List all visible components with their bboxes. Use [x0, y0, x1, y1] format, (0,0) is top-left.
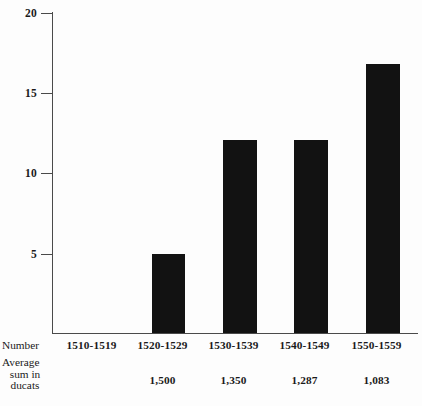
bar-chart-figure: 20 15 10 5 Number Average sum in ducats … [0, 0, 422, 406]
category-label-1540-1549: 1540-1549 [268, 340, 341, 351]
y-tick-label-20: 20 [0, 8, 37, 20]
y-tick-label-5: 5 [0, 249, 37, 261]
bar-1520-1529 [152, 254, 185, 333]
bar-1550-1559 [366, 64, 400, 333]
category-label-1550-1559: 1550-1559 [340, 340, 413, 351]
row-label-number: Number [2, 340, 52, 352]
x-axis-line [52, 333, 418, 334]
ducats-value-1520-1529: 1,500 [126, 375, 199, 386]
category-label-1530-1539: 1530-1539 [197, 340, 270, 351]
row-label-average-line3: ducats [2, 380, 48, 392]
y-tick-label-10: 10 [0, 168, 37, 180]
bars-container [52, 13, 418, 333]
bar-1530-1539 [223, 140, 257, 333]
ducats-value-1550-1559: 1,083 [340, 375, 413, 386]
ducats-value-1530-1539: 1,350 [197, 375, 270, 386]
row-label-average-line1: Average [2, 357, 52, 369]
y-tick-label-15: 15 [0, 88, 37, 100]
bar-1540-1549 [294, 140, 328, 333]
category-label-1520-1529: 1520-1529 [126, 340, 199, 351]
category-label-1510-1519: 1510-1519 [55, 340, 128, 351]
row-label-average-sum-in-ducats: Average sum in ducats [2, 357, 52, 392]
ducats-value-1540-1549: 1,287 [268, 375, 341, 386]
